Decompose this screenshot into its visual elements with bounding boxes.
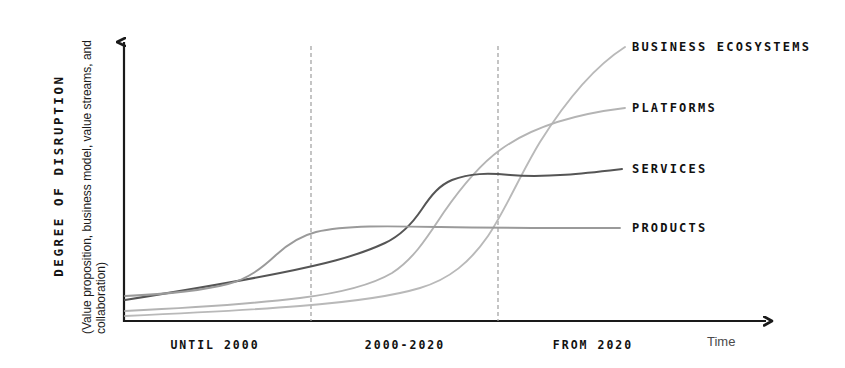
curve-business-ecosystems <box>125 47 625 316</box>
series-label-services: SERVICES <box>632 162 707 176</box>
curve-services <box>125 169 622 300</box>
curve-products <box>125 226 620 296</box>
series-label-products: PRODUCTS <box>632 221 707 235</box>
x-axis-title: Time <box>707 334 735 349</box>
chart-canvas <box>0 0 845 368</box>
disruption-s-curve-chart: DEGREE OF DISRUPTION (Value proposition,… <box>0 0 845 368</box>
series-label-business-ecosystems: BUSINESS ECOSYSTEMS <box>632 40 811 54</box>
x-axis-label-2000-2020: 2000-2020 <box>312 338 498 352</box>
series-label-platforms: PLATFORMS <box>632 101 717 115</box>
x-axis-label-until-2000: UNTIL 2000 <box>120 338 310 352</box>
series-curves <box>125 47 625 316</box>
x-axis-label-from-2020: FROM 2020 <box>500 338 686 352</box>
curve-platforms <box>125 108 625 311</box>
